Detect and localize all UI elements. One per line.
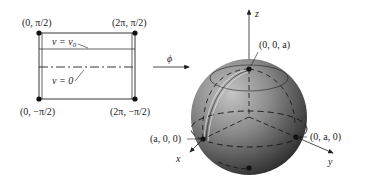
label-v-zero: v = 0 (52, 75, 73, 86)
label-x-axis: x (175, 153, 181, 164)
label-corner-top-right: (2π, π/2) (112, 17, 147, 29)
diagram-canvas: (0, π/2) (2π, π/2) (0, −π/2) (2π, −π/2) … (0, 0, 367, 188)
label-point-north: (0, 0, a) (259, 39, 290, 51)
pointer-v-zero (75, 70, 84, 81)
label-phi: ϕ (167, 53, 172, 64)
label-corner-bottom-left: (0, −π/2) (20, 106, 55, 118)
corner-dot-top-right (132, 30, 137, 35)
label-corner-bottom-right: (2π, −π/2) (110, 106, 150, 118)
label-z-axis: z (254, 8, 259, 19)
label-v-v0: v = v0 (52, 36, 77, 49)
corner-dot-bottom-left (36, 96, 41, 101)
sphere-group (191, 59, 307, 175)
point-north (246, 66, 251, 71)
label-y-axis: y (327, 156, 333, 167)
label-corner-top-left: (0, π/2) (22, 17, 52, 29)
pointer-v-v0 (78, 44, 88, 48)
corner-dot-top-left (36, 30, 41, 35)
label-point-x: (a, 0, 0) (150, 133, 181, 145)
label-point-y: (0, a, 0) (310, 131, 341, 143)
corner-dot-bottom-right (132, 96, 137, 101)
point-south (246, 165, 251, 170)
